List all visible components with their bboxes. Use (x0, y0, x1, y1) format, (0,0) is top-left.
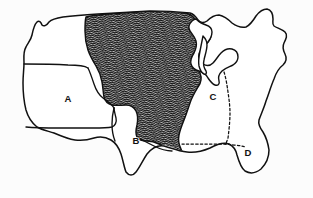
region-label-c: C (210, 91, 217, 102)
map-svg: A B C D (0, 0, 313, 198)
region-label-b: B (133, 135, 140, 146)
us-regions-map-figure: A B C D (0, 0, 313, 198)
region-label-a: A (65, 93, 72, 104)
region-label-d: D (245, 147, 252, 158)
